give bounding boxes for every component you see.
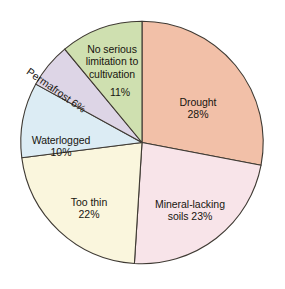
pie-label-waterlogged: Waterlogged 10% xyxy=(14,122,108,171)
pie-label-too-thin: Too thin 22% xyxy=(46,184,132,233)
pie-label-no-serious-pct: 11% xyxy=(90,86,150,99)
pie-label-waterlogged-pct: 10% xyxy=(14,146,108,158)
pie-chart: Drought 28% Mineral-lacking soils 23% To… xyxy=(0,0,285,289)
pie-label-no-serious-text: No serious limitation to cultivation xyxy=(86,43,138,80)
pie-label-too-thin-text: Too thin xyxy=(71,196,107,208)
pie-label-no-serious-limitation: No serious limitation to cultivation 11% xyxy=(74,30,150,112)
pie-label-drought-text: Drought xyxy=(179,96,216,108)
pie-label-mineral-lacking-soils: Mineral-lacking soils 23% xyxy=(142,186,238,235)
pie-label-drought: Drought 28% xyxy=(158,84,238,133)
pie-label-mineral-text: Mineral-lacking xyxy=(155,198,225,210)
pie-label-waterlogged-text: Waterlogged xyxy=(32,134,91,146)
pie-label-too-thin-pct: 22% xyxy=(46,208,132,220)
pie-label-drought-pct: 28% xyxy=(158,108,238,120)
pie-label-mineral-pct: soils 23% xyxy=(142,210,238,222)
